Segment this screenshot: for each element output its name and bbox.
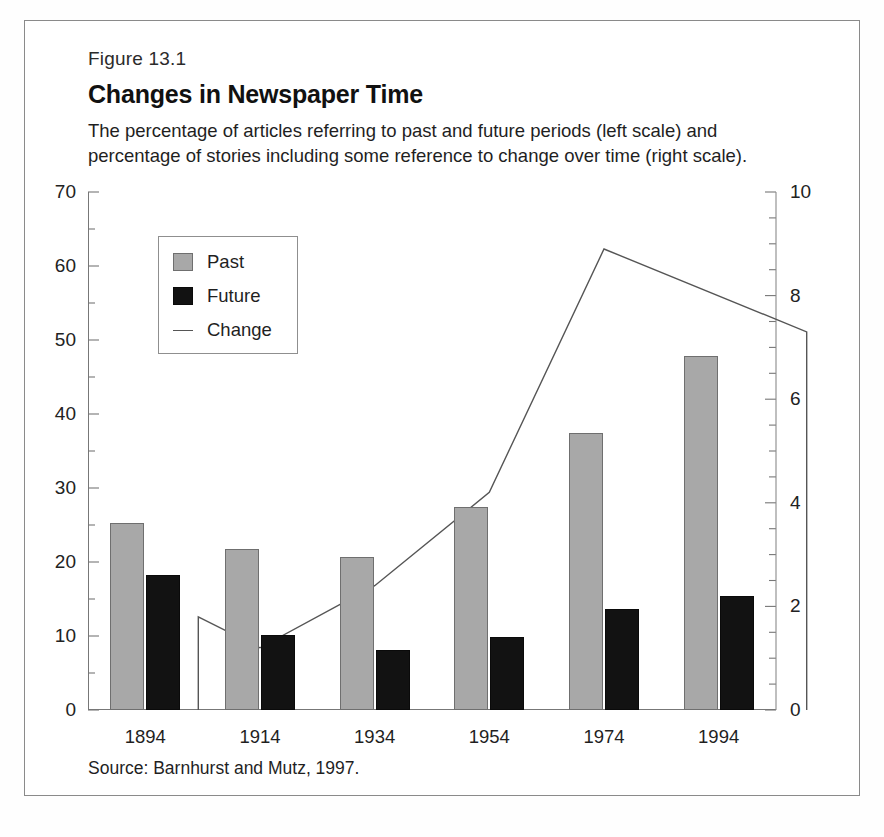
bar-past-1994 [684, 356, 718, 710]
right-axis-tick-4: 4 [790, 492, 801, 514]
figure-title: Changes in Newspaper Time [88, 80, 423, 109]
bar-past-1934 [340, 557, 374, 710]
left-axis-tick-40: 40 [55, 403, 76, 425]
figure-source: Source: Barnhurst and Mutz, 1997. [88, 758, 359, 779]
chart-legend: Past Future Change [158, 236, 298, 354]
legend-label-change: Change [207, 319, 272, 341]
left-axis-tick-60: 60 [55, 255, 76, 277]
bar-future-1994 [720, 596, 754, 710]
chart-plot-area: 010203040506070 0246810 1894191419341954… [88, 192, 776, 710]
x-axis-label-1954: 1954 [469, 726, 510, 748]
legend-item-future: Future [173, 285, 260, 307]
bar-future-1934 [376, 650, 410, 710]
right-axis-tick-0: 0 [790, 699, 801, 721]
legend-swatch-past-icon [173, 253, 193, 271]
right-axis-tick-6: 6 [790, 388, 801, 410]
right-axis-tick-2: 2 [790, 595, 801, 617]
legend-item-change: Change [173, 319, 272, 341]
bar-past-1914 [225, 549, 259, 710]
bar-past-1894 [110, 523, 144, 710]
figure-subtitle: The percentage of articles referring to … [88, 118, 748, 168]
bar-future-1914 [261, 635, 295, 710]
left-axis-tick-70: 70 [55, 181, 76, 203]
bar-past-1954 [454, 507, 488, 710]
x-axis-label-1914: 1914 [239, 726, 280, 748]
legend-label-past: Past [207, 251, 244, 273]
x-axis-label-1974: 1974 [583, 726, 624, 748]
left-axis-tick-50: 50 [55, 329, 76, 351]
legend-swatch-future-icon [173, 287, 193, 305]
bar-future-1894 [146, 575, 180, 710]
bar-future-1954 [490, 637, 524, 710]
legend-label-future: Future [207, 285, 260, 307]
x-axis-label-1934: 1934 [354, 726, 395, 748]
right-axis-tick-8: 8 [790, 285, 801, 307]
x-axis-label-1894: 1894 [125, 726, 166, 748]
left-axis-tick-30: 30 [55, 477, 76, 499]
bar-past-1974 [569, 433, 603, 710]
figure-page: Figure 13.1 Changes in Newspaper Time Th… [0, 0, 884, 837]
figure-number: Figure 13.1 [88, 48, 186, 70]
legend-item-past: Past [173, 251, 244, 273]
left-axis-tick-20: 20 [55, 551, 76, 573]
left-axis-tick-10: 10 [55, 625, 76, 647]
left-axis-tick-0: 0 [65, 699, 76, 721]
right-axis-tick-10: 10 [790, 181, 811, 203]
x-axis-label-1994: 1994 [698, 726, 739, 748]
legend-swatch-change-line-icon [173, 321, 193, 339]
bar-future-1974 [605, 609, 639, 710]
